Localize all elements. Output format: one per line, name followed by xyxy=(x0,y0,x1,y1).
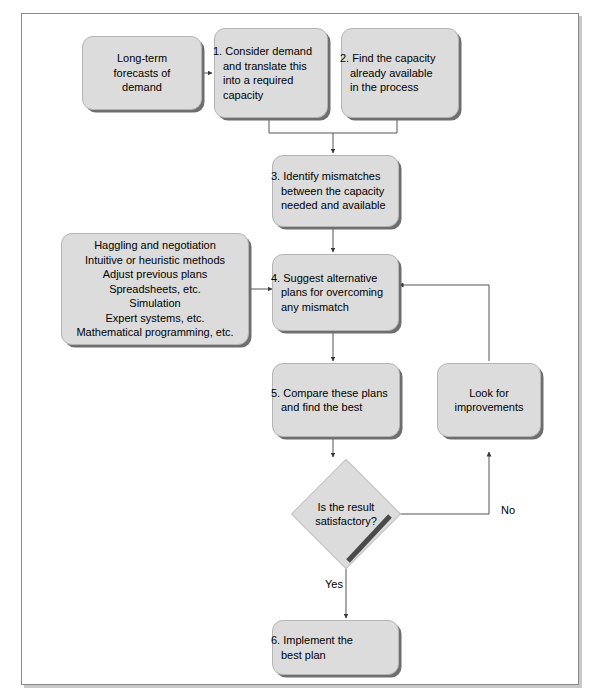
node-step4-line-1: 4. Suggest alternative xyxy=(281,271,390,286)
node-step3-line-1: 3. Identify mismatches xyxy=(281,169,390,184)
node-step6-line-2: best plan xyxy=(281,648,390,663)
node-improvements-line-1: Look for xyxy=(446,386,532,401)
node-step6[interactable]: 6. Implement the best plan xyxy=(272,620,399,675)
node-forecasts-line-1: Long-term xyxy=(91,51,193,66)
flowchart-canvas: Long-term forecasts of demand 1. Conside… xyxy=(0,0,599,700)
node-forecasts-line-2: forecasts of xyxy=(91,66,193,81)
node-forecasts-line-3: demand xyxy=(91,80,193,95)
node-step1-line-3: into a required xyxy=(223,73,319,88)
node-decision-line-2: satisfactory? xyxy=(315,514,377,529)
node-step1-line-4: capacity xyxy=(223,88,319,103)
node-improvements[interactable]: Look for improvements xyxy=(437,363,541,437)
node-step3[interactable]: 3. Identify mismatches between the capac… xyxy=(272,155,399,227)
node-step3-line-2: between the capacity xyxy=(281,184,390,199)
node-improvements-line-2: improvements xyxy=(446,400,532,415)
node-step5[interactable]: 5. Compare these plans and find the best xyxy=(272,363,400,437)
node-step2-line-3: in the process xyxy=(350,80,450,95)
decision-label: Is the result satisfactory? xyxy=(291,459,401,569)
node-step6-line-1: 6. Implement the xyxy=(281,633,390,648)
node-step2-line-1: 2. Find the capacity xyxy=(350,51,450,66)
node-forecasts[interactable]: Long-term forecasts of demand xyxy=(82,36,202,110)
node-step4[interactable]: 4. Suggest alternative plans for overcom… xyxy=(272,254,399,331)
node-methods[interactable]: Haggling and negotiation Intuitive or he… xyxy=(61,233,249,345)
node-step3-line-3: needed and available xyxy=(281,198,390,213)
edge-label-yes: Yes xyxy=(325,578,343,590)
node-step4-line-2: plans for overcoming xyxy=(281,285,390,300)
node-decision-line-1: Is the result xyxy=(315,500,377,515)
node-step2[interactable]: 2. Find the capacity already available i… xyxy=(341,28,459,118)
node-step1-line-2: and translate this xyxy=(223,59,319,74)
node-step5-line-1: 5. Compare these plans xyxy=(281,386,391,401)
node-step2-line-2: already available xyxy=(350,66,450,81)
node-methods-line-5: Simulation xyxy=(70,296,240,311)
node-methods-line-1: Haggling and negotiation xyxy=(70,238,240,253)
node-step1[interactable]: 1. Consider demand and translate this in… xyxy=(214,28,328,118)
node-methods-line-3: Adjust previous plans xyxy=(70,267,240,282)
node-step1-line-1: 1. Consider demand xyxy=(223,44,319,59)
node-decision[interactable]: Is the result satisfactory? xyxy=(291,459,401,569)
node-methods-line-7: Mathematical programming, etc. xyxy=(70,325,240,340)
node-step4-line-3: any mismatch xyxy=(281,300,390,315)
node-methods-line-4: Spreadsheets, etc. xyxy=(70,282,240,297)
node-methods-line-6: Expert systems, etc. xyxy=(70,311,240,326)
node-step5-line-2: and find the best xyxy=(281,400,391,415)
node-methods-line-2: Intuitive or heuristic methods xyxy=(70,253,240,268)
edge-label-no: No xyxy=(501,504,515,516)
